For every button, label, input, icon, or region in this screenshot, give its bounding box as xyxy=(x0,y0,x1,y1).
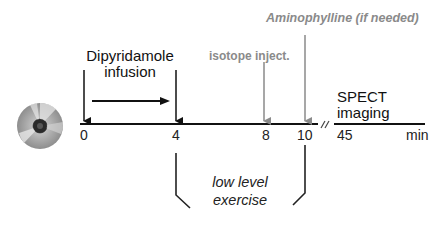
tick-45: 45 xyxy=(337,128,353,142)
tick-10: 10 xyxy=(297,128,313,142)
infusion-arrow-icon xyxy=(92,97,170,105)
exercise-line2: exercise xyxy=(200,191,280,209)
cd-disc-icon xyxy=(17,103,63,149)
dipyridamole-line1: Dipyridamole xyxy=(80,48,180,64)
spect-line1: SPECT xyxy=(337,89,390,105)
spect-line2: imaging xyxy=(337,105,390,121)
tick-4: 4 xyxy=(172,128,180,142)
unit-min: min xyxy=(406,128,429,142)
dipyridamole-label: Dipyridamole infusion xyxy=(80,48,180,80)
low-level-exercise-label: low level exercise xyxy=(200,173,280,209)
dipyridamole-line2: infusion xyxy=(80,64,180,80)
tick-0: 0 xyxy=(80,128,88,142)
isotope-inject-label: isotope inject. xyxy=(209,49,290,63)
axis-break-icon xyxy=(321,121,329,128)
aminophylline-label: Aminophylline (if needed) xyxy=(266,11,419,25)
exercise-line1: low level xyxy=(200,173,280,191)
spect-imaging-label: SPECT imaging xyxy=(337,89,390,121)
tick-8: 8 xyxy=(262,128,270,142)
